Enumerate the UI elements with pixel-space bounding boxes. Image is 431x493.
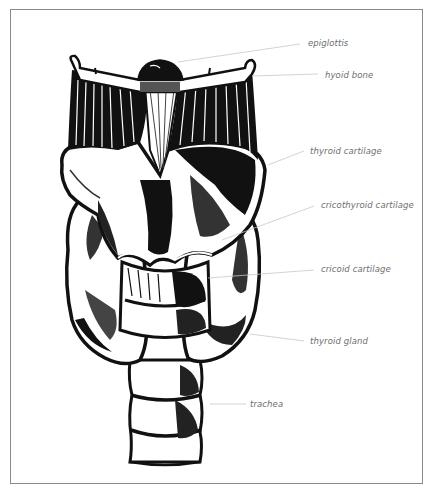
leader-epiglottis [178,44,300,62]
leader-thyroid-gland [250,334,304,341]
label-epiglottis: epiglottis [308,38,348,48]
label-hyoid-bone: hyoid bone [325,70,373,80]
label-thyroid-cartilage: thyroid cartilage [310,146,382,156]
label-cricothyroid-cartilage: cricothyroid cartilage [321,200,414,210]
leader-hyoid-bone [252,74,318,76]
label-trachea: trachea [250,399,283,409]
label-thyroid-gland: thyroid gland [310,336,368,346]
cricoid-cartilage-drawing [120,262,210,338]
epiglottis-drawing [138,60,183,80]
trachea-drawing [129,360,202,465]
leader-thyroid-cartilage [268,151,304,165]
label-cricoid-cartilage: cricoid cartilage [321,264,391,274]
